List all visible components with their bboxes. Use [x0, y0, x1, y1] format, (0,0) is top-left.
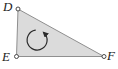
vertex-point-f [102, 55, 106, 59]
triangle-figure-svg [0, 0, 118, 69]
vertex-point-d [16, 7, 20, 11]
vertex-point-e [15, 55, 19, 59]
vertex-label-f: F [107, 49, 115, 63]
vertex-label-e: E [2, 50, 10, 64]
vertex-label-d: D [3, 0, 12, 14]
geometry-figure: D E F [0, 0, 118, 69]
